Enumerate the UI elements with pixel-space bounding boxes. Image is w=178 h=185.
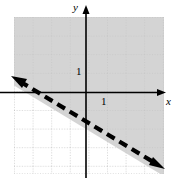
y-axis-label: y bbox=[73, 2, 78, 13]
x-axis-tick-label-1: 1 bbox=[101, 96, 107, 107]
y-axis-tick-label-1: 1 bbox=[76, 66, 82, 77]
inequality-graph-figure: y x 1 1 bbox=[0, 0, 178, 185]
x-axis-label: x bbox=[166, 96, 171, 107]
grid-lines-overlay bbox=[14, 17, 165, 175]
graph-canvas bbox=[0, 0, 178, 185]
